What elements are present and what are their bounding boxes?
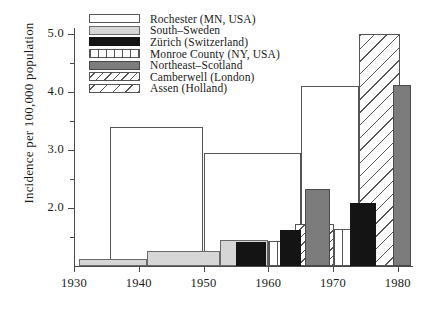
x-tick-label: 1950 [181, 276, 227, 291]
legend-swatch [89, 49, 140, 58]
legend-swatch [89, 37, 140, 46]
y-tick-label: 5.0 [18, 26, 64, 41]
legend-label: Monroe County (NY, USA) [150, 48, 280, 60]
bar [350, 203, 376, 266]
bar [79, 259, 147, 266]
x-tick-label: 1980 [375, 276, 421, 291]
x-tick-mark [204, 266, 205, 272]
y-tick-label: 4.0 [18, 84, 64, 99]
legend-label: South–Sweden [150, 24, 220, 36]
x-tick-mark [74, 266, 75, 272]
bar [305, 189, 330, 266]
legend-item: South–Sweden [89, 25, 280, 37]
bar [236, 242, 266, 266]
legend-swatch [89, 84, 140, 93]
x-tick-mark [268, 266, 269, 272]
bar [393, 85, 410, 266]
x-tick-mark [139, 266, 140, 272]
chart-legend: Rochester (MN, USA)South–SwedenZürich (S… [89, 13, 280, 94]
x-tick-mark [398, 266, 399, 272]
x-tick-label: 1960 [245, 276, 291, 291]
x-tick-label: 1940 [116, 276, 162, 291]
legend-swatch [89, 26, 140, 35]
x-axis-line [74, 266, 413, 267]
legend-label: Rochester (MN, USA) [150, 13, 256, 25]
bar [147, 251, 220, 266]
legend-item: Rochester (MN, USA) [89, 13, 280, 25]
chart-figure: Incidence per 100,000 population 5.04.03… [0, 0, 438, 314]
legend-label: Zürich (Switzerland) [150, 36, 248, 48]
x-tick-label: 1930 [51, 276, 97, 291]
x-tick-mark [333, 266, 334, 272]
legend-label: Northeast–Scotland [150, 59, 243, 71]
legend-item: Zürich (Switzerland) [89, 36, 280, 48]
x-tick-label: 1970 [310, 276, 356, 291]
bar [280, 230, 301, 266]
legend-item: Monroe County (NY, USA) [89, 48, 280, 60]
legend-item: Northeast–Scotland [89, 59, 280, 71]
legend-swatch [89, 61, 140, 70]
legend-item: Assen (Holland) [89, 83, 280, 95]
legend-swatch [89, 14, 140, 23]
y-tick-label: 3.0 [18, 142, 64, 157]
legend-swatch [89, 72, 140, 81]
y-tick-label: 2.0 [18, 200, 64, 215]
bar [110, 127, 204, 266]
legend-label: Assen (Holland) [150, 82, 227, 94]
legend-item: Camberwell (London) [89, 71, 280, 83]
legend-label: Camberwell (London) [150, 71, 254, 83]
